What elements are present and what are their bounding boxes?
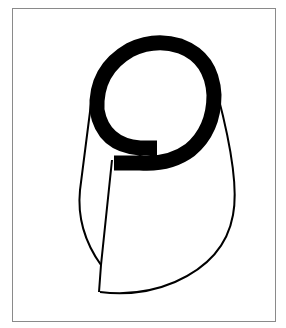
figure-canvas [0,0,286,328]
